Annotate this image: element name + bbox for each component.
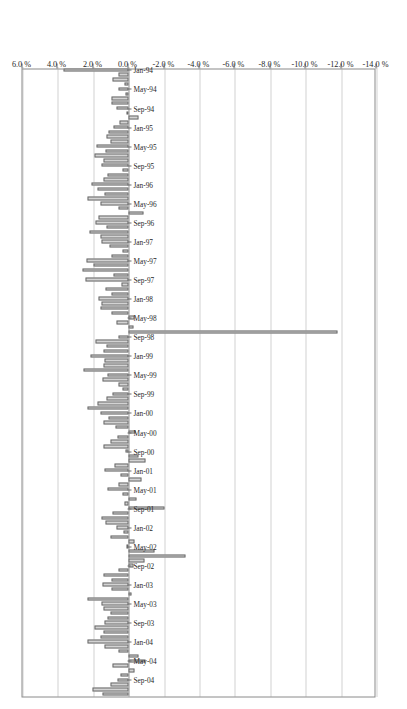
category-tick-mark [127, 584, 131, 585]
category-tick-mark [127, 527, 131, 528]
bar [107, 173, 128, 176]
category-tick-mark [127, 336, 131, 337]
category-tick-mark [127, 451, 131, 452]
plot-area [21, 68, 375, 697]
bar [106, 225, 128, 228]
bar [105, 287, 128, 290]
bar [128, 211, 143, 214]
value-axis-tick-label: -14.0 % [362, 59, 388, 68]
category-axis-tick-label: Sep-02 [133, 561, 154, 570]
category-axis-tick-label: May-96 [133, 199, 156, 208]
bar [118, 649, 128, 652]
bar [92, 687, 128, 690]
bar [103, 630, 129, 633]
category-tick-mark [127, 69, 131, 70]
value-axis-tick-label: -8.0 % [258, 59, 280, 68]
bar [100, 635, 128, 638]
bar [107, 373, 128, 376]
bar [124, 501, 128, 504]
bar [94, 625, 129, 628]
category-tick-mark [127, 222, 131, 223]
bar [101, 163, 128, 166]
bar [112, 663, 128, 666]
bar [110, 682, 129, 685]
category-tick-mark [127, 241, 131, 242]
category-axis-tick-label: May-04 [133, 657, 156, 666]
bar [94, 153, 129, 156]
gridline [199, 67, 200, 696]
bar [103, 177, 129, 180]
bar [111, 292, 128, 295]
bar [104, 468, 128, 471]
category-axis-tick-label: Jan-04 [133, 638, 152, 647]
bar [91, 182, 128, 185]
gridline [93, 67, 94, 696]
bar [118, 382, 128, 385]
bar [128, 668, 134, 671]
bar [106, 344, 128, 347]
bar [122, 168, 128, 171]
category-axis-tick-label: Sep-96 [133, 218, 154, 227]
bar [123, 530, 128, 533]
category-tick-mark [127, 489, 131, 490]
bar [89, 230, 128, 233]
bar [111, 96, 128, 99]
bar [115, 425, 128, 428]
bar [110, 611, 129, 614]
bar [103, 363, 129, 366]
bar [106, 396, 128, 399]
bar [111, 587, 128, 590]
bar [112, 392, 128, 395]
bar [100, 306, 128, 309]
category-axis-tick-label: Jan-99 [133, 352, 152, 361]
bar [110, 139, 129, 142]
bar [128, 554, 185, 557]
category-axis-tick-label: May-98 [133, 314, 156, 323]
bar [98, 296, 128, 299]
category-axis-tick-label: Jan-02 [133, 523, 152, 532]
value-axis-tick-label: -10.0 % [291, 59, 317, 68]
bar [101, 601, 128, 604]
bar [87, 640, 129, 643]
category-axis-tick-label: Jan-01 [133, 466, 152, 475]
category-axis-tick-label: Jan-98 [133, 295, 152, 304]
category-tick-mark [127, 298, 131, 299]
value-axis-tick-label: -2.0 % [152, 59, 174, 68]
bar [100, 411, 128, 414]
bar [128, 592, 131, 595]
bar [118, 568, 128, 571]
gridline [305, 67, 306, 696]
bar [101, 516, 128, 519]
category-tick-mark [127, 641, 131, 642]
category-axis-tick-label: May-00 [133, 428, 156, 437]
bar [120, 473, 128, 476]
category-axis-tick-label: May-03 [133, 600, 156, 609]
chart-page: CS/Tremont Event Driven 6.0 %4.0 %2.0 %0… [0, 0, 407, 709]
bar [114, 463, 128, 466]
gridline [22, 67, 23, 696]
bar [118, 482, 128, 485]
bar [118, 72, 129, 75]
category-axis-tick-label: Sep-03 [133, 619, 154, 628]
value-axis-tick-label: 2.0 % [82, 59, 101, 68]
gridline [164, 67, 165, 696]
category-tick-mark [127, 679, 131, 680]
bar [82, 268, 128, 271]
bar [116, 106, 128, 109]
bar [125, 92, 129, 95]
bar [122, 387, 128, 390]
bar [128, 477, 141, 480]
value-axis-tick-label: 4.0 % [47, 59, 66, 68]
category-tick-mark [127, 146, 131, 147]
bar [120, 673, 128, 676]
category-tick-mark [127, 260, 131, 261]
category-axis-tick-label: Jan-03 [133, 581, 152, 590]
bar [90, 354, 128, 357]
bar [112, 77, 128, 80]
gridline [341, 67, 342, 696]
category-axis-tick-label: Jan-97 [133, 237, 152, 246]
bar [101, 301, 128, 304]
category-tick-mark [127, 88, 131, 89]
bar [126, 111, 129, 114]
category-tick-mark [127, 279, 131, 280]
